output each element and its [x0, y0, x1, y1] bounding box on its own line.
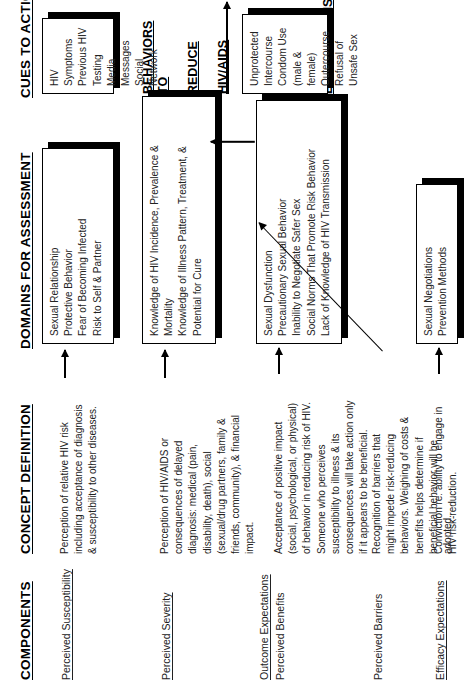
domain-box-efficacy-expectations: Sexual Negotiations Prevention Methods: [416, 184, 458, 344]
domain-box-perceived-benefits: Sexual Dysfunction Precautionary Sexual …: [256, 100, 342, 344]
column-header-domains-for-assessment: DOMAINS FOR ASSESSMENT: [18, 152, 33, 349]
diagram-canvas: COMPONENTS CONCEPT DEFINITION DOMAINS FO…: [0, 0, 473, 694]
row-group-label-outcome-expectations: Outcome Expectations: [258, 574, 270, 680]
arrow-efficacy-to-domains: [438, 348, 440, 374]
row-label-perceived-severity: Perceived Severity: [160, 592, 172, 680]
arrow-cues-to-behaviors: [226, 2, 228, 94]
behaviors-headline-line2: REDUCE: [186, 41, 200, 94]
column-header-cues-to-action: CUES TO ACTION: [18, 0, 33, 98]
concept-definition-perceived-benefits: Acceptance of positive impact (social, p…: [272, 356, 371, 554]
arrow-severity-to-domains: [164, 350, 166, 378]
cues-to-action-text: HIV Symptoms Previous HIV Testing Media …: [48, 26, 162, 86]
domain-box-susceptibility-text: Sexual Relationship Protective Behavior …: [48, 156, 105, 336]
concept-definition-efficacy-expectations: Conviction re: ability to engage in HIV …: [432, 354, 460, 554]
row-label-efficacy-expectations: Efficacy Expectations: [434, 580, 446, 680]
behaviors-outcome-box: Unprotected Intercourse Condom Use (male…: [242, 14, 328, 94]
column-header-concept-definition: CONCEPT DEFINITION: [18, 404, 33, 554]
behaviors-headline-line3: HIV/AIDS: [216, 40, 230, 94]
domain-box-severity-text: Knowledge of HIV Incidence, Prevalence &…: [148, 104, 205, 336]
column-header-components: COMPONENTS: [18, 581, 33, 680]
row-label-perceived-susceptibility: Perceived Susceptibility: [60, 569, 72, 680]
domain-box-perceived-susceptibility: Sexual Relationship Protective Behavior …: [42, 148, 114, 344]
arrow-benefits-to-domains: [278, 348, 280, 374]
concept-definition-perceived-susceptibility: Perception of relative HIV risk includin…: [58, 364, 101, 554]
domain-box-benefits-text: Sexual Dysfunction Precautionary Sexual …: [262, 108, 333, 336]
domain-box-efficacy-text: Sexual Negotiations Prevention Methods: [422, 192, 450, 336]
domain-box-perceived-severity: Knowledge of HIV Incidence, Prevalence &…: [142, 96, 216, 344]
rotated-diagram-wrapper: COMPONENTS CONCEPT DEFINITION DOMAINS FO…: [0, 0, 473, 694]
arrow-benefits-domain-to-behaviors: [211, 141, 255, 143]
concept-definition-perceived-severity: Perception of HIV/AIDS or consequences o…: [158, 362, 257, 554]
cues-to-action-box: HIV Symptoms Previous HIV Testing Media …: [42, 18, 114, 94]
row-label-perceived-benefits: Perceived Benefits: [274, 592, 286, 680]
arrow-susceptibility-to-domains: [64, 350, 66, 378]
behaviors-outcome-text: Unprotected Intercourse Condom Use (male…: [248, 22, 362, 86]
row-label-perceived-barriers: Perceived Barriers: [372, 594, 384, 680]
